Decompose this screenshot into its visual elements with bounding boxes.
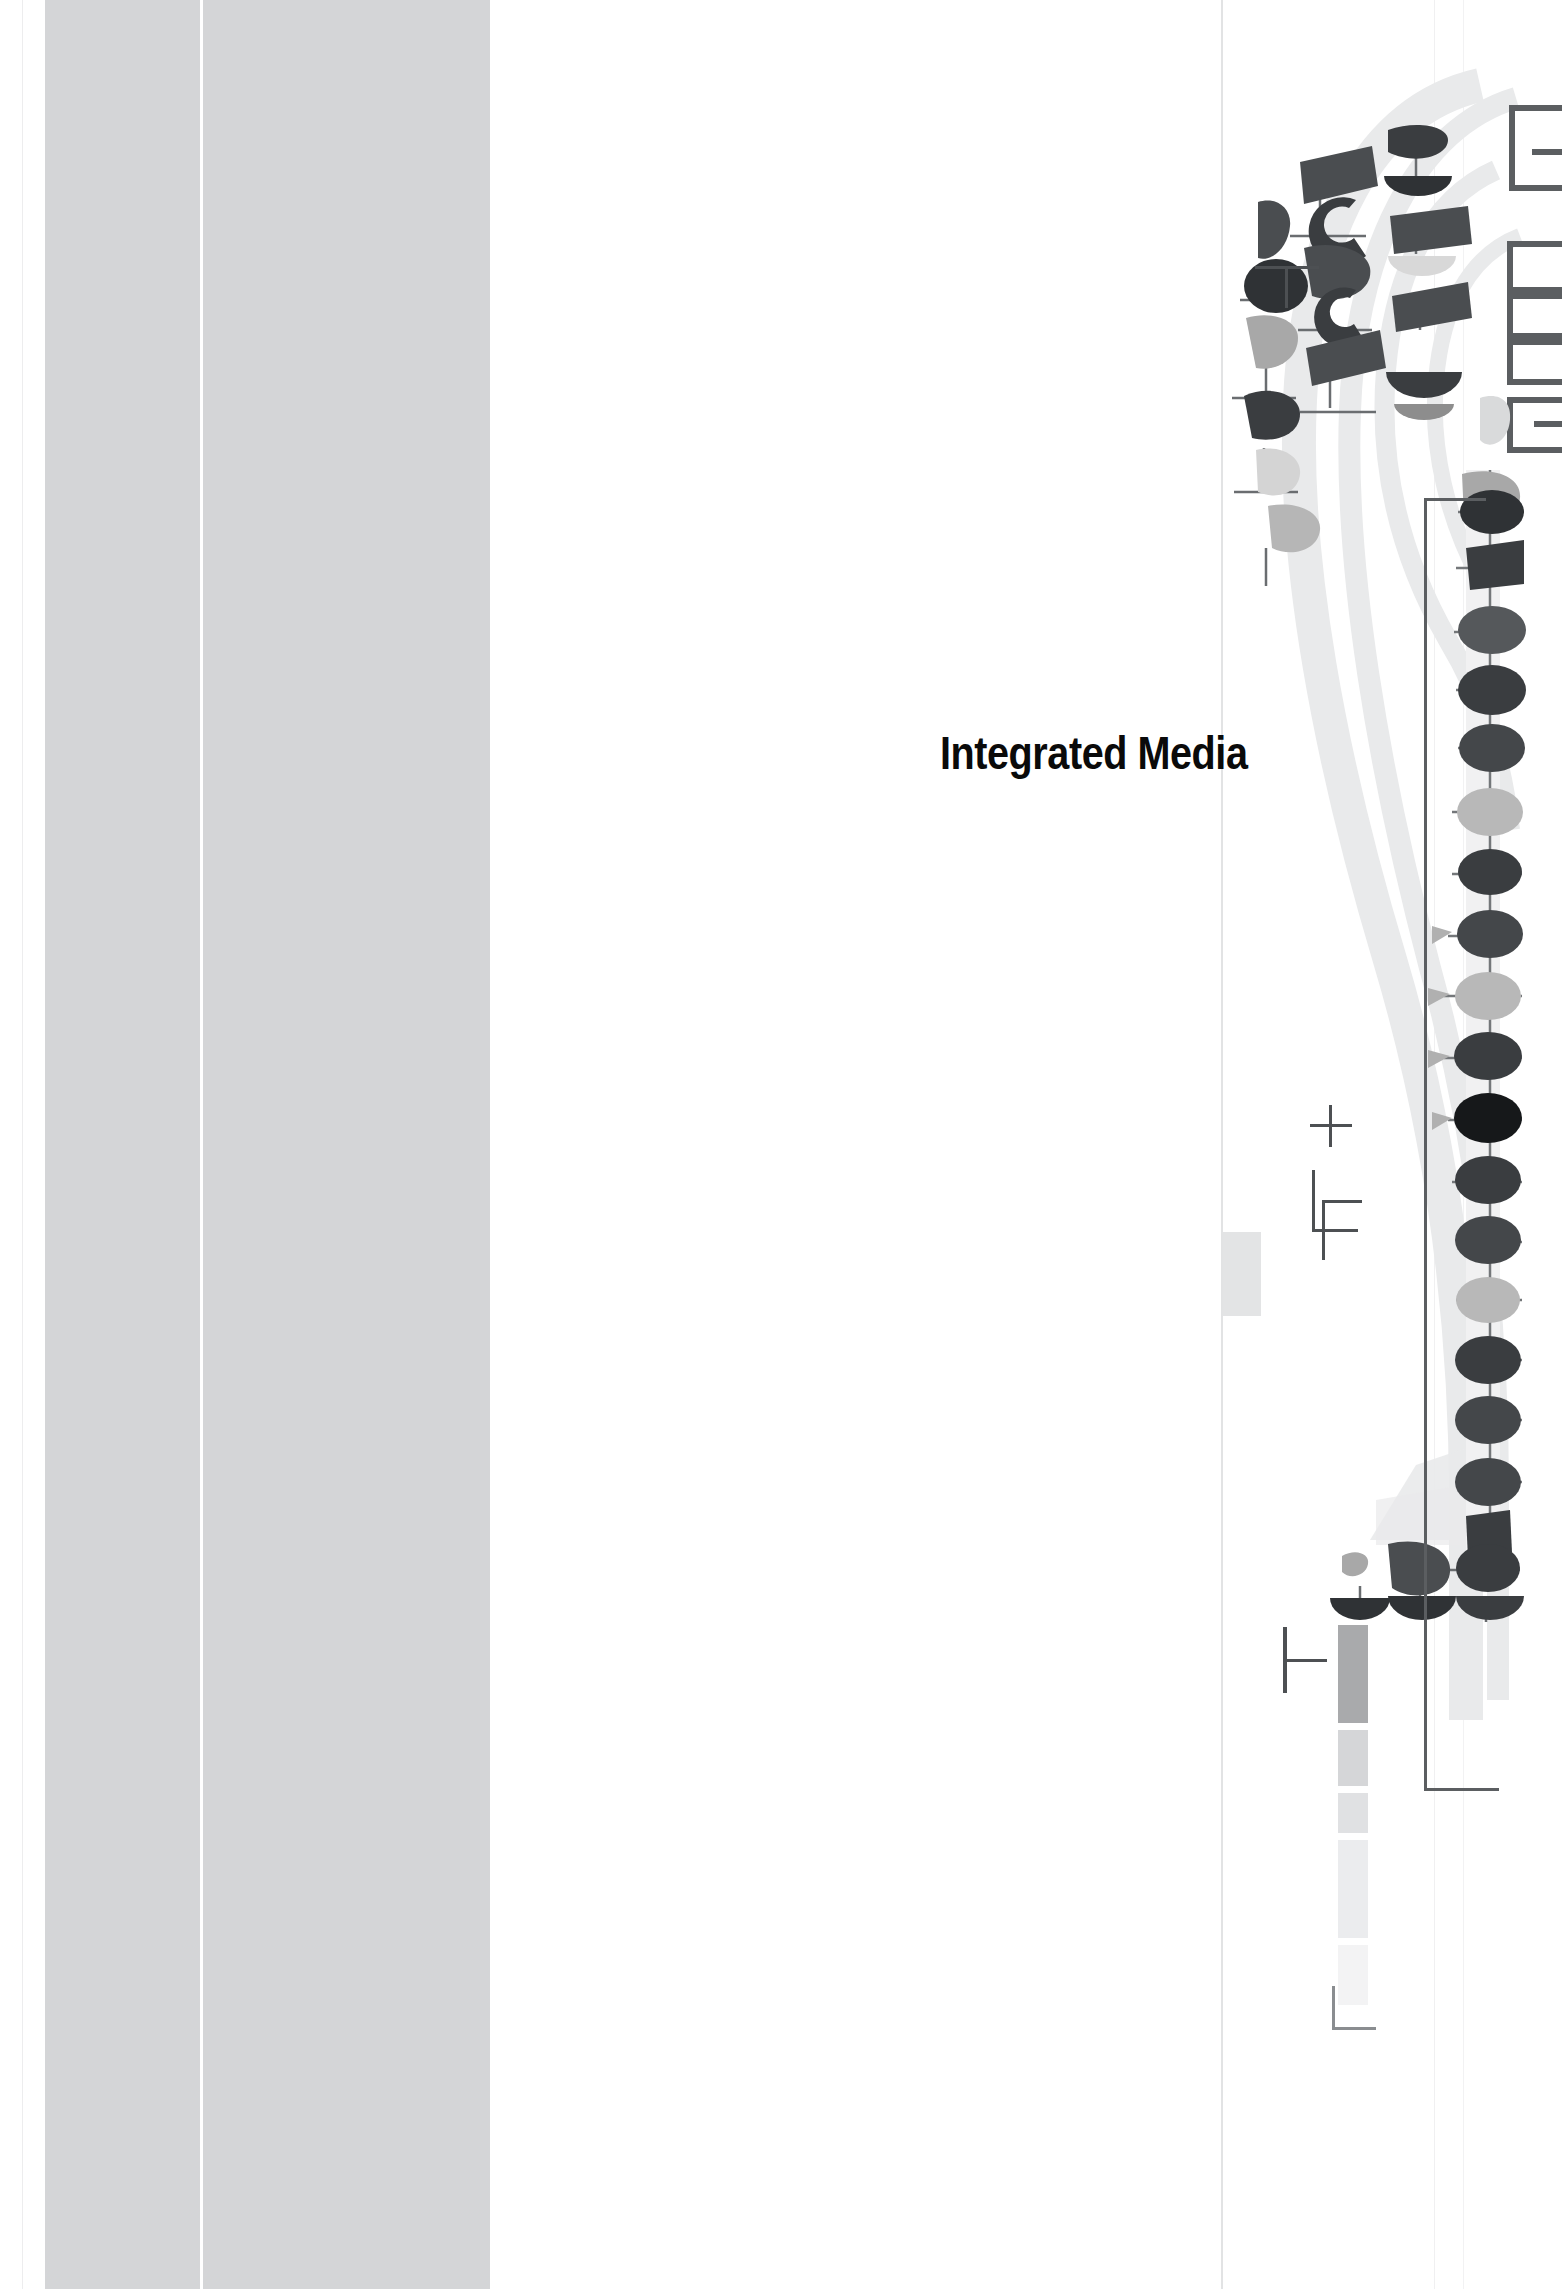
registration-mark-plus-icon xyxy=(1310,1105,1352,1147)
registration-mark-ell-secondary-icon xyxy=(1322,1200,1362,1260)
registration-mark-corner-icon xyxy=(1332,1986,1376,2030)
vertical-rule-center xyxy=(1221,0,1223,2289)
gradient-bar-3 xyxy=(1338,1793,1368,1833)
gradient-bar-2 xyxy=(1338,1730,1368,1786)
chain-shape xyxy=(1246,315,1298,368)
gradient-bar-4 xyxy=(1338,1840,1368,1938)
left-gray-band xyxy=(45,0,490,2289)
registration-mark-tee-side-icon xyxy=(1283,1627,1327,1693)
rule-gray-patch xyxy=(1223,1232,1261,1316)
gradient-bar-1 xyxy=(1338,1625,1368,1723)
shape-cluster-right xyxy=(1384,125,1472,420)
decorative-graphic xyxy=(1180,0,1562,2289)
chain-shape xyxy=(1258,200,1290,258)
left-band-divider xyxy=(200,0,203,2289)
registration-mark-tee-icon xyxy=(1255,266,1319,308)
chain-shape xyxy=(1268,504,1320,552)
chain-shape xyxy=(1394,404,1454,420)
chain-shape xyxy=(1480,396,1510,445)
chain-shape xyxy=(1386,372,1462,398)
chain-shape xyxy=(1390,206,1472,254)
chain-shape xyxy=(1342,1552,1368,1576)
chain-shape xyxy=(1244,391,1300,440)
bracket-outline xyxy=(1424,500,1499,1791)
section-divider-page: Integrated Media xyxy=(0,0,1562,2289)
chain-shape xyxy=(1392,282,1472,332)
page-title: Integrated Media xyxy=(940,730,1247,776)
decorative-graphic-svg xyxy=(1180,0,1562,2289)
chain-shape xyxy=(1388,256,1456,276)
chain-shape xyxy=(1309,197,1366,265)
chain-shape xyxy=(1384,176,1452,196)
chain-shape xyxy=(1314,288,1364,348)
chain-shape xyxy=(1306,330,1386,386)
chain-shape xyxy=(1300,146,1378,204)
chain-shape xyxy=(1256,448,1300,495)
chain-shape xyxy=(1330,1598,1390,1620)
bracket-e-shapes xyxy=(1510,108,1562,450)
left-hairline-rule xyxy=(22,0,23,2289)
shape-chain-outer xyxy=(1232,200,1320,586)
chain-shape xyxy=(1388,125,1448,159)
